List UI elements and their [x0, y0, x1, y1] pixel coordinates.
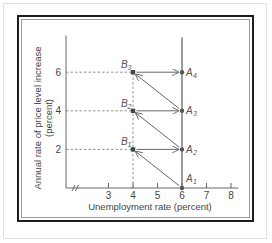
point-label-subscript: 2 — [127, 103, 132, 110]
y-axis-title: Annual rate of price level increase — [32, 46, 43, 189]
y-axis-title-unit: (percent) — [43, 99, 54, 137]
point-label-subscript: 3 — [128, 64, 132, 71]
x-tick-label: 3 — [106, 190, 112, 201]
y-tick-label: 6 — [55, 67, 61, 78]
point-label-a3: A — [185, 105, 193, 116]
transition-arrow — [136, 152, 180, 186]
point-b1 — [131, 147, 135, 151]
point-label-subscript: 2 — [192, 149, 197, 156]
transition-arrow — [136, 113, 180, 147]
point-label-subscript: 3 — [193, 110, 197, 117]
x-tick-label: 4 — [130, 190, 136, 201]
point-b3 — [131, 70, 135, 74]
x-tick-label: 6 — [179, 190, 185, 201]
y-tick-label: 2 — [55, 144, 61, 155]
point-label-a2: A — [185, 144, 193, 155]
point-b2 — [131, 109, 135, 113]
x-tick-label: 8 — [228, 190, 234, 201]
point-label-a1: A — [185, 173, 193, 184]
transition-arrow — [136, 74, 180, 108]
point-a2 — [180, 147, 184, 151]
x-tick-label: 7 — [204, 190, 210, 201]
point-label-subscript: 4 — [193, 72, 197, 79]
point-a3 — [180, 109, 184, 113]
chart: 345678246B1B2B3A1A2A3A4 Unemployment rat… — [0, 0, 272, 243]
point-a4 — [180, 70, 184, 74]
y-tick-label: 4 — [55, 105, 61, 116]
x-axis-title: Unemployment rate (percent) — [88, 201, 212, 212]
x-tick-label: 5 — [155, 190, 161, 201]
point-label-a4: A — [185, 67, 193, 78]
point-label-subscript: 1 — [128, 141, 132, 148]
point-label-subscript: 1 — [193, 178, 197, 185]
